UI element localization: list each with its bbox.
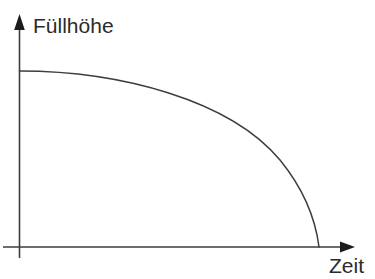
x-axis-arrow-icon <box>340 242 355 253</box>
x-axis-label: Zeit <box>329 255 364 276</box>
y-axis-arrow-icon <box>14 14 25 30</box>
y-axis-label: Füllhöhe <box>33 15 114 36</box>
fill-height-curve <box>20 71 320 247</box>
plot-area <box>0 0 375 279</box>
fill-height-over-time-diagram: Füllhöhe Zeit <box>0 0 375 279</box>
